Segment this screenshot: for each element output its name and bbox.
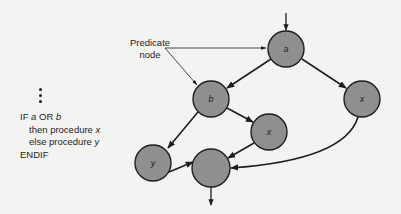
pseudocode-block: IF a OR b then procedure x else procedur…: [20, 111, 100, 161]
svg-text:b: b: [208, 94, 213, 104]
edge-a-x: [302, 59, 346, 88]
edge-b-x: [227, 108, 253, 122]
node-merge: [192, 149, 230, 187]
node-x-mid: x: [251, 114, 287, 150]
label-line-2: node: [117, 49, 183, 61]
label-line-1: Predicate: [117, 37, 183, 49]
ellipsis-dots: [39, 88, 43, 106]
svg-text:x: x: [359, 94, 365, 104]
svg-text:a: a: [283, 44, 288, 54]
svg-text:y: y: [150, 158, 156, 168]
node-x-right: x: [344, 81, 380, 117]
edge-y-merge: [169, 162, 193, 172]
code-line-then: then procedure x: [20, 124, 100, 137]
node-b: b: [193, 81, 229, 117]
node-y: y: [135, 145, 171, 181]
code-line-if: IF a OR b: [20, 111, 100, 124]
edge-a-b: [227, 59, 271, 88]
edge-xright-merge: [231, 117, 358, 168]
svg-text:x: x: [266, 127, 272, 137]
code-line-endif: ENDIF: [20, 149, 100, 162]
code-line-else: else procedure y: [20, 136, 100, 149]
edge-b-y: [168, 112, 198, 148]
predicate-node-label: Predicate node: [117, 37, 183, 61]
node-a: a: [268, 31, 304, 67]
flow-graph-canvas: a b x y x: [0, 0, 401, 214]
edge-x-merge: [228, 143, 254, 158]
